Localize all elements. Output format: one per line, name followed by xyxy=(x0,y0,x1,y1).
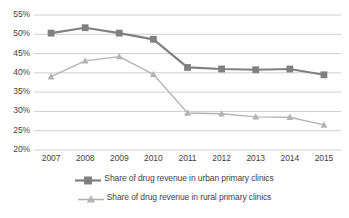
legend-label-urban: Share of drug revenue in urban primary c… xyxy=(104,173,273,183)
data-point-marker xyxy=(321,71,328,78)
data-point-marker xyxy=(286,66,293,73)
y-tick-label: 35% xyxy=(0,86,30,96)
x-tick-label: 2015 xyxy=(307,153,341,163)
y-tick-label: 55% xyxy=(0,9,30,19)
legend-key-square-icon xyxy=(75,172,101,183)
x-tick-label: 2012 xyxy=(205,153,239,163)
x-tick-label: 2014 xyxy=(273,153,307,163)
chart-legend: Share of drug revenue in urban primary c… xyxy=(0,168,349,206)
y-tick-label: 25% xyxy=(0,125,30,135)
x-tick-label: 2007 xyxy=(34,153,68,163)
legend-label-rural: Share of drug revenue in rural primary c… xyxy=(107,192,272,202)
data-point-marker xyxy=(252,66,259,73)
line-chart: 55%50%45%40%35%30%25%20% 200720082009201… xyxy=(0,0,349,218)
y-tick-label: 45% xyxy=(0,48,30,58)
data-point-marker xyxy=(150,36,157,43)
legend-item-urban: Share of drug revenue in urban primary c… xyxy=(0,168,349,187)
data-point-marker xyxy=(48,30,55,37)
data-point-marker xyxy=(218,66,225,73)
y-tick-label: 50% xyxy=(0,28,30,38)
x-tick-label: 2011 xyxy=(171,153,205,163)
x-tick-label: 2009 xyxy=(102,153,136,163)
data-point-marker xyxy=(150,71,157,77)
data-point-marker xyxy=(82,24,89,31)
x-tick-label: 2013 xyxy=(239,153,273,163)
x-tick-label: 2010 xyxy=(136,153,170,163)
data-point-marker xyxy=(184,64,191,71)
legend-key-triangle-icon xyxy=(78,191,104,202)
y-tick-label: 30% xyxy=(0,105,30,115)
x-tick-label: 2008 xyxy=(68,153,102,163)
y-tick-label: 20% xyxy=(0,144,30,154)
data-point-marker xyxy=(116,30,123,37)
legend-item-rural: Share of drug revenue in rural primary c… xyxy=(0,187,349,206)
y-tick-label: 40% xyxy=(0,67,30,77)
